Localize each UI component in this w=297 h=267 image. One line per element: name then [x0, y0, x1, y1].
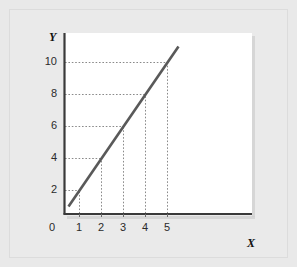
plot-area-shadow-bottom [67, 216, 255, 219]
x-tick-label-1: 1 [73, 222, 85, 233]
x-tick-label-0: 0 [46, 222, 58, 233]
plot-area-shadow-right [252, 36, 255, 217]
x-tick-label-3: 3 [117, 222, 129, 233]
y-axis-title: Y [49, 31, 56, 43]
x-tick-label-5: 5 [161, 222, 173, 233]
y-tick-label-4: 4 [39, 152, 57, 163]
x-axis-title: X [247, 237, 255, 249]
chart-figure: 10 8 6 4 2 0 1 2 3 4 5 Y X [0, 0, 297, 267]
y-tick-label-6: 6 [39, 120, 57, 131]
y-tick-label-8: 8 [39, 88, 57, 99]
y-tick-label-2: 2 [39, 184, 57, 195]
plot-area-background [64, 33, 252, 214]
x-tick-label-4: 4 [139, 222, 151, 233]
x-tick-label-2: 2 [95, 222, 107, 233]
y-tick-label-10: 10 [39, 56, 57, 67]
